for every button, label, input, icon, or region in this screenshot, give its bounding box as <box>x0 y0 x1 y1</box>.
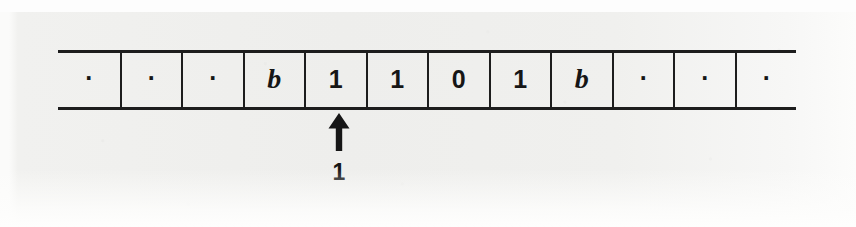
up-arrow-icon <box>326 112 352 152</box>
tape-cell-symbol: 1 <box>390 67 404 92</box>
tape-cell[interactable]: 1 <box>489 50 551 110</box>
tape-cell[interactable]: . <box>673 50 735 110</box>
tape-cell-symbol: . <box>701 59 708 84</box>
tape-cell-head-position[interactable]: 1 <box>304 50 366 110</box>
tape-cell-symbol: 0 <box>452 67 466 92</box>
tape-cell-symbol: 1 <box>329 67 343 92</box>
paper-top-margin <box>0 0 856 12</box>
tape-cell-symbol: . <box>148 59 155 84</box>
tape-cell-symbol: b <box>575 65 589 93</box>
tape-cell-symbol: 1 <box>513 67 527 92</box>
turing-tape-figure: . . . b 1 1 0 1 <box>0 0 856 227</box>
tape-cell[interactable]: b <box>550 50 612 110</box>
tape-cell-symbol: b <box>267 65 281 93</box>
tape-cell[interactable]: . <box>735 50 797 110</box>
tape-cell[interactable]: . <box>120 50 182 110</box>
tape-cell[interactable]: . <box>58 50 120 110</box>
tape-cell[interactable]: . <box>612 50 674 110</box>
turing-machine-tape: . . . b 1 1 0 1 <box>58 50 796 110</box>
tape-cell-symbol: . <box>209 59 216 84</box>
tape-cell-row: . . . b 1 1 0 1 <box>58 50 796 110</box>
tape-cell-symbol: . <box>640 59 647 84</box>
tape-cell-symbol: . <box>85 59 92 84</box>
tape-cell[interactable]: 0 <box>427 50 489 110</box>
paper-bottom-margin <box>0 169 856 227</box>
tape-cell-symbol: . <box>763 59 770 84</box>
tape-cell[interactable]: . <box>181 50 243 110</box>
tape-cell[interactable]: 1 <box>366 50 428 110</box>
tape-cell[interactable]: b <box>243 50 305 110</box>
